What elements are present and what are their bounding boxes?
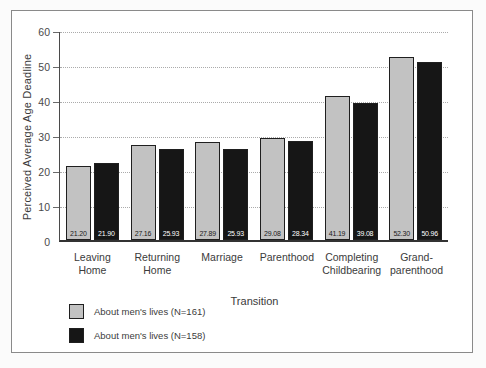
bar-value-label: 52.30 bbox=[388, 230, 415, 237]
bar-value-label: 25.93 bbox=[222, 230, 249, 237]
bar-group: 29.0828.34 bbox=[254, 32, 319, 240]
y-axis-tick bbox=[53, 172, 59, 173]
legend-swatch bbox=[69, 328, 84, 343]
legend-label: About men's lives (N=161) bbox=[94, 306, 205, 317]
bar-series-1: 28.34 bbox=[288, 141, 313, 240]
bar-series-1: 25.93 bbox=[223, 149, 248, 240]
bar-series-0: 21.20 bbox=[66, 166, 91, 240]
bar-group: 21.2021.90 bbox=[60, 32, 125, 240]
y-axis-tick bbox=[53, 207, 59, 208]
bar-series-0: 29.08 bbox=[260, 138, 285, 240]
legend-swatch bbox=[69, 304, 84, 319]
bar-series-0: 52.30 bbox=[389, 57, 414, 240]
bar-value-label: 41.19 bbox=[324, 230, 351, 237]
y-tick-label: 30 bbox=[20, 131, 50, 143]
y-tick-label: 20 bbox=[20, 166, 50, 178]
y-axis-tick bbox=[53, 137, 59, 138]
y-tick-label: 40 bbox=[20, 96, 50, 108]
bar-value-label: 28.34 bbox=[287, 230, 314, 237]
bar-series-1: 25.93 bbox=[159, 149, 184, 240]
y-axis-tick bbox=[53, 102, 59, 103]
x-tick-label: Marriage bbox=[190, 251, 255, 277]
bar-value-label: 27.89 bbox=[194, 230, 221, 237]
x-axis-labels: Leaving HomeReturning HomeMarriageParent… bbox=[60, 251, 449, 277]
bars-row: 21.2021.9027.1625.9327.8925.9329.0828.34… bbox=[60, 32, 448, 240]
bar-group: 52.3050.96 bbox=[383, 32, 448, 240]
legend-label: About men's lives (N=158) bbox=[94, 330, 205, 341]
x-tick-label: Parenthood bbox=[254, 251, 319, 277]
x-tick-label: Completing Childbearing bbox=[319, 251, 384, 277]
legend-item: About men's lives (N=161) bbox=[69, 303, 205, 319]
x-tick-label: Grand- parenthood bbox=[384, 251, 449, 277]
y-tick-label: 60 bbox=[20, 26, 50, 38]
y-axis-tick bbox=[53, 67, 59, 68]
y-axis-tick bbox=[53, 32, 59, 33]
bar-value-label: 50.96 bbox=[416, 230, 443, 237]
bar-series-1: 50.96 bbox=[417, 62, 442, 240]
bar-series-0: 41.19 bbox=[325, 96, 350, 240]
bar-group: 27.1625.93 bbox=[125, 32, 190, 240]
legend: About men's lives (N=161) About men's li… bbox=[69, 303, 205, 351]
figure-page: { "figure": { "background": "#ffffff", "… bbox=[0, 0, 486, 368]
bar-value-label: 27.16 bbox=[130, 230, 157, 237]
bar-series-0: 27.16 bbox=[131, 145, 156, 240]
bar-value-label: 25.93 bbox=[158, 230, 185, 237]
bar-value-label: 29.08 bbox=[259, 230, 286, 237]
plot-area: 21.2021.9027.1625.9327.8925.9329.0828.34… bbox=[59, 32, 448, 242]
figure-frame: Perceived Average Age Deadline 010203040… bbox=[11, 10, 473, 353]
bar-group: 41.1939.08 bbox=[319, 32, 384, 240]
bar-value-label: 21.90 bbox=[93, 230, 120, 237]
legend-item: About men's lives (N=158) bbox=[69, 327, 205, 343]
bar-series-1: 21.90 bbox=[94, 163, 119, 240]
y-axis-labels: 0102030405060 bbox=[12, 32, 55, 244]
y-tick-label: 50 bbox=[20, 61, 50, 73]
bar-series-1: 39.08 bbox=[353, 103, 378, 240]
x-tick-label: Leaving Home bbox=[60, 251, 125, 277]
bar-value-label: 39.08 bbox=[352, 230, 379, 237]
bar-group: 27.8925.93 bbox=[189, 32, 254, 240]
x-tick-label: Returning Home bbox=[125, 251, 190, 277]
y-tick-label: 0 bbox=[20, 236, 50, 248]
bar-value-label: 21.20 bbox=[65, 230, 92, 237]
y-tick-label: 10 bbox=[20, 201, 50, 213]
bar-series-0: 27.89 bbox=[195, 142, 220, 240]
